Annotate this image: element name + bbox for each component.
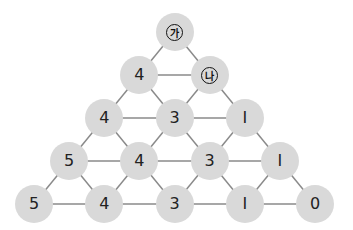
node-label: I: [278, 153, 283, 169]
number-node: 3: [156, 99, 194, 137]
number-node: 4: [85, 99, 123, 137]
node-label: 5: [64, 153, 74, 169]
circled-label: 나: [201, 67, 218, 84]
node-label: 4: [134, 153, 144, 169]
number-node: I: [226, 185, 264, 223]
number-node: I: [226, 99, 264, 137]
number-node: 5: [15, 185, 53, 223]
number-node: 3: [156, 185, 194, 223]
number-node: 3: [191, 142, 229, 180]
unknown-node: 나: [191, 56, 229, 94]
number-node: 5: [50, 142, 88, 180]
circled-label: 가: [166, 24, 183, 41]
number-node: I: [261, 142, 299, 180]
node-label: 4: [99, 196, 109, 212]
node-label: I: [242, 196, 247, 212]
node-label: 4: [134, 67, 144, 83]
node-label: 5: [29, 196, 39, 212]
unknown-node: 가: [156, 13, 194, 51]
node-label: 3: [169, 110, 179, 126]
node-label: 0: [310, 196, 320, 212]
node-label: 3: [205, 153, 215, 169]
node-label: 4: [99, 110, 109, 126]
node-label: I: [242, 110, 247, 126]
number-node: 0: [296, 185, 334, 223]
number-node: 4: [85, 185, 123, 223]
node-label: 3: [169, 196, 179, 212]
